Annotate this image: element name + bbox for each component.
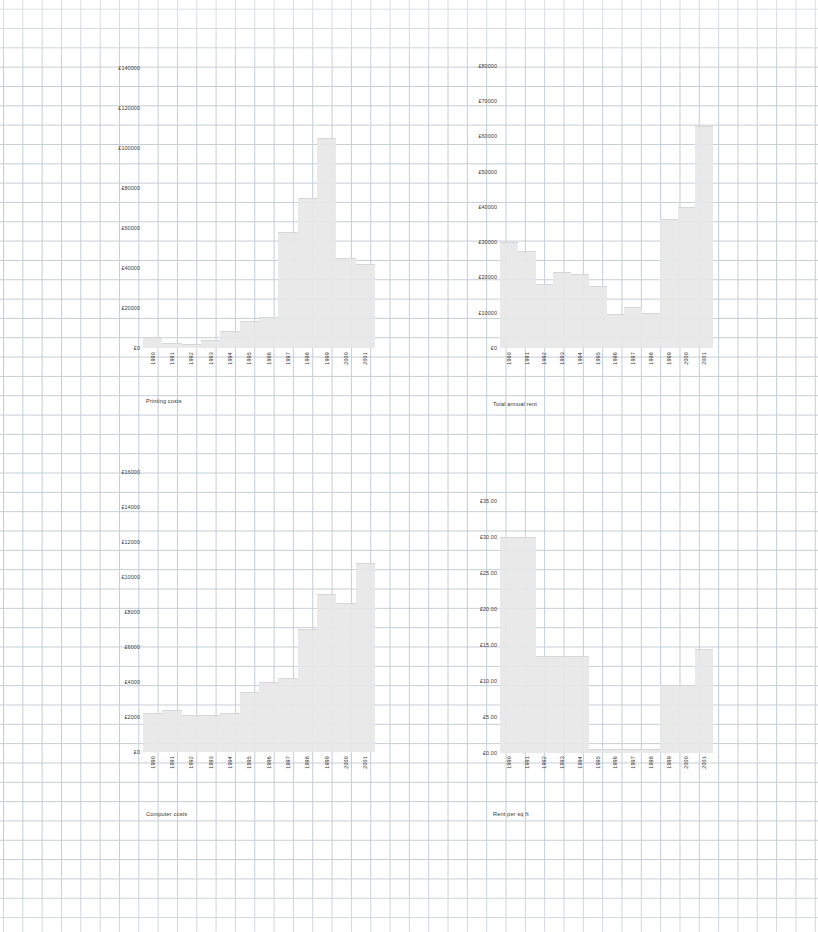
bar: [317, 594, 336, 752]
bar: [259, 682, 278, 752]
bar: [695, 649, 713, 753]
y-axis-tick-label: £5.00: [483, 714, 497, 720]
plot-area-printing-costs: [143, 48, 375, 348]
bar: [143, 337, 162, 348]
bar: [356, 264, 375, 348]
x-axis-tick: 1993: [553, 352, 571, 388]
x-axis-tick-label: 1993: [208, 352, 214, 365]
x-axis-tick: 2000: [336, 352, 355, 388]
x-axis-tick: 1998: [298, 352, 317, 388]
x-axis-tick-label: 1992: [541, 352, 547, 365]
plot-area-computer-costs: [143, 454, 375, 752]
y-axis-tick-label: £20.00: [480, 606, 497, 612]
y-axis-tick-label: £14000: [121, 504, 140, 510]
bar: [500, 537, 518, 753]
y-axis-tick-label: £40000: [121, 265, 140, 271]
x-axis-tick-label: 1991: [524, 756, 530, 769]
x-axis-tick: 1999: [317, 756, 336, 792]
bar: [356, 563, 375, 752]
bar: [553, 656, 571, 753]
x-axis-tick: 1990: [500, 352, 518, 388]
x-axis-tick-label: 2000: [683, 756, 689, 769]
x-axis-tick: 1993: [201, 352, 220, 388]
x-axis-tick: 2001: [356, 352, 375, 388]
bar: [536, 656, 554, 753]
x-axis-tick: 1992: [536, 756, 554, 792]
x-axis-tick-label: 2000: [343, 756, 349, 769]
y-axis-tick-label: £10000: [478, 310, 497, 316]
x-axis-tick: 1994: [571, 352, 589, 388]
bar: [298, 629, 317, 752]
x-axis-tick-label: 2000: [343, 352, 349, 365]
bar: [500, 242, 518, 348]
bar: [278, 678, 297, 752]
x-axis-labels-total-annual-rent: 1990199119921993199419951996199719981999…: [500, 352, 713, 388]
y-axis-tick-label: £50000: [478, 169, 497, 175]
x-axis-tick: 2001: [695, 352, 713, 388]
bar: [298, 198, 317, 348]
y-axis-labels-computer-costs: £0£2000£4000£6000£8000£10000£12000£14000…: [62, 454, 140, 752]
bar-series-rent-per-sq-ft: [500, 483, 713, 753]
x-axis-tick: 2000: [678, 352, 696, 388]
bar: [201, 340, 220, 348]
y-axis-tick-label: £0: [134, 345, 140, 351]
x-axis-tick: 1991: [162, 352, 181, 388]
x-axis-tick-label: 2001: [362, 756, 368, 769]
x-axis-tick: 1997: [278, 756, 297, 792]
y-axis-tick-label: £40000: [478, 204, 497, 210]
x-axis-tick: 1996: [607, 756, 625, 792]
y-axis-tick-label: £10000: [121, 574, 140, 580]
y-axis-tick-label: £120000: [118, 105, 140, 111]
x-axis-tick: 2000: [678, 756, 696, 792]
y-axis-tick-label: £60000: [121, 225, 140, 231]
x-axis-tick-label: 1997: [285, 352, 291, 365]
y-axis-tick-label: £80000: [121, 185, 140, 191]
bar: [536, 284, 554, 348]
bar: [220, 331, 239, 348]
bar: [678, 685, 696, 753]
y-axis-tick-label: £0.00: [483, 750, 497, 756]
bar: [571, 656, 589, 753]
x-axis-tick-label: 1995: [595, 756, 601, 769]
x-axis-tick: 1994: [571, 756, 589, 792]
x-axis-tick: 1990: [143, 352, 162, 388]
y-axis-labels-rent-per-sq-ft: £0.00£5.00£10.00£15.00£20.00£25.00£30.00…: [419, 483, 497, 753]
x-axis-tick: 1995: [240, 756, 259, 792]
x-axis-tick: 1996: [607, 352, 625, 388]
x-axis-tick: 2000: [336, 756, 355, 792]
y-axis-labels-total-annual-rent: £0£10000£20000£30000£40000£50000£60000£7…: [419, 48, 497, 348]
x-axis-tick-label: 1994: [227, 352, 233, 365]
bar: [259, 317, 278, 348]
bar: [660, 219, 678, 348]
chart-caption-rent-per-sq-ft: Rent per sq ft: [493, 811, 529, 817]
x-axis-tick: 1994: [220, 756, 239, 792]
x-axis-tick-label: 1990: [150, 352, 156, 365]
x-axis-tick-label: 1995: [246, 756, 252, 769]
y-axis-tick-label: £16000: [121, 469, 140, 475]
x-axis-tick-label: 1998: [648, 756, 654, 769]
y-axis-tick-label: £8000: [125, 609, 141, 615]
bar: [336, 603, 355, 752]
x-axis-tick: 1995: [240, 352, 259, 388]
chart-panel-total-annual-rent: £0£10000£20000£30000£40000£50000£60000£7…: [409, 0, 818, 466]
bar: [678, 207, 696, 348]
x-axis-tick-label: 1995: [595, 352, 601, 365]
bar: [240, 321, 259, 348]
x-axis-tick-label: 1991: [524, 352, 530, 365]
x-axis-tick-label: 1998: [648, 352, 654, 365]
y-axis-tick-label: £100000: [118, 145, 140, 151]
x-axis-tick-label: 1995: [246, 352, 252, 365]
y-axis-tick-label: £15.00: [480, 642, 497, 648]
x-axis-tick-label: 1997: [630, 352, 636, 365]
x-axis-tick: 1997: [624, 352, 642, 388]
y-axis-tick-label: £20000: [121, 305, 140, 311]
chart-caption-printing-costs: Printing costs: [146, 398, 182, 404]
x-axis-tick: 1995: [589, 756, 607, 792]
x-axis-tick-label: 1994: [577, 352, 583, 365]
y-axis-labels-printing-costs: £0£20000£40000£60000£80000£100000£120000…: [62, 48, 140, 348]
x-axis-tick: 1997: [278, 352, 297, 388]
y-axis-tick-label: £0: [491, 345, 497, 351]
bar-series-computer-costs: [143, 454, 375, 752]
y-axis-tick-label: £10.00: [480, 678, 497, 684]
x-axis-tick-label: 1999: [666, 756, 672, 769]
